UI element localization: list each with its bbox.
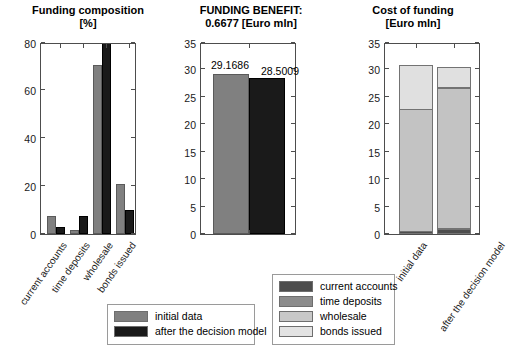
ytick-mark-3-10-right [475,178,479,179]
ytick-mark-2-20-right [291,123,295,124]
ytick-mark-1-40-right [131,137,135,138]
ytick-label-3-0: 0 [352,230,380,241]
legend-item-bonds-issued[interactable]: bonds issued [279,324,388,339]
ytick-label-3-10: 10 [352,175,380,186]
plot-area-3 [385,44,479,234]
xtick-mark-2-mid-bottom [249,230,250,234]
ytick-mark-2-35-right [291,42,295,43]
ytick-label-2-25: 25 [168,93,196,104]
ytick-mark-2-15-right [291,151,295,152]
ytick-label-1-60: 60 [8,86,36,97]
ytick-mark-2-10-right [291,178,295,179]
ytick-mark-3-30-right [475,68,479,69]
xtick-mark-1-1 [60,44,61,48]
ytick-label-1-0: 0 [8,230,36,241]
legend-label-current-accounts: current accounts [320,281,398,292]
ytick-mark-1-60 [41,89,45,90]
panel-1-title-line2: [%] [8,17,168,30]
ytick-mark-2-5-right [291,206,295,207]
bar-initial-wholesale [93,65,102,234]
ytick-mark-2-0 [201,233,205,234]
bar-value-after-model: 28.5009 [250,66,310,77]
ytick-label-3-20: 20 [352,120,380,131]
ytick-label-2-15: 15 [168,147,196,158]
ytick-mark-1-80 [41,42,45,43]
legend-item-wholesale[interactable]: wholesale [279,309,388,324]
ytick-mark-3-5-right [475,206,479,207]
ytick-mark-3-20-right [475,123,479,124]
ytick-mark-1-80-right [131,42,135,43]
ytick-mark-3-20 [385,123,389,124]
legend-item-current-accounts[interactable]: current accounts [279,279,388,294]
ytick-mark-3-0 [385,233,389,234]
ytick-mark-3-0-right [475,233,479,234]
panel-1-title-line1: Funding composition [8,4,168,17]
axes-funding-composition [40,43,136,235]
xtick-mark-3-1 [416,44,417,48]
bar-model-current-accounts [56,227,65,234]
ytick-label-2-35: 35 [168,39,196,50]
legend-item-time-deposits[interactable]: time deposits [279,294,388,309]
ytick-label-3-25: 25 [352,93,380,104]
legend-swatch-time-deposits [279,296,313,307]
plot-area-1 [41,44,135,234]
legend-label-bonds-issued: bonds issued [320,326,382,337]
ytick-mark-3-30 [385,68,389,69]
legend-label-after-model: after the decision model [155,326,266,337]
bar-benefit-after-model [249,78,285,234]
legend-item-initial-data[interactable]: initial data [114,309,248,324]
bar-initial-current-accounts [47,216,56,234]
ytick-mark-2-35 [201,42,205,43]
bar-model-wholesale [102,44,111,234]
ytick-mark-3-35 [385,42,389,43]
panel-2-title-line2: 0.6677 [Euro mln] [176,17,326,30]
ytick-mark-1-40 [41,137,45,138]
legend-swatch-current-accounts [279,281,313,292]
bar-initial-bonds-issued [116,184,125,234]
bar-model-time-deposits [79,216,88,235]
axes-cost-of-funding [384,43,480,235]
ytick-label-2-5: 5 [168,202,196,213]
legend-label-wholesale: wholesale [320,311,367,322]
legend-series: initial data after the decision model [107,304,255,345]
ytick-label-3-35: 35 [352,39,380,50]
bar-benefit-initial-data [213,74,249,234]
legend-label-initial-data: initial data [155,311,202,322]
xtick-mark-3-2 [454,44,455,48]
ytick-label-1-80: 80 [8,39,36,50]
stack-model-current-accounts [437,229,471,235]
ytick-mark-1-60-right [131,89,135,90]
legend-swatch-after-model [114,326,148,337]
stack-initial-wholesale [399,65,433,109]
ytick-mark-2-25 [201,96,205,97]
xlabel-3-after-model: after the decision model [423,240,507,353]
legend-item-after-model[interactable]: after the decision model [114,324,248,339]
ytick-mark-2-25-right [291,96,295,97]
bar-initial-time-deposits [70,230,79,234]
ytick-mark-2-5 [201,206,205,207]
ytick-mark-3-25 [385,96,389,97]
ytick-label-2-30: 30 [168,65,196,76]
ytick-label-2-0: 0 [168,230,196,241]
ytick-label-3-30: 30 [352,65,380,76]
stack-model-time-deposits [437,88,471,229]
ytick-label-1-20: 20 [8,182,36,193]
ytick-mark-2-15 [201,151,205,152]
ytick-mark-3-25-right [475,96,479,97]
panel-2-title-line1: FUNDING BENEFIT: [176,4,326,17]
panel-3-title-line1: Cost of funding [338,4,488,17]
ytick-mark-3-35-right [475,42,479,43]
ytick-mark-1-20-right [131,185,135,186]
ytick-mark-2-20 [201,123,205,124]
xtick-mark-1-3 [106,44,107,48]
legend-swatch-bonds-issued [279,326,313,337]
ytick-label-2-20: 20 [168,120,196,131]
legend-swatch-initial-data [114,311,148,322]
xtick-mark-1-2 [83,44,84,48]
bar-model-bonds-issued [125,210,134,234]
ytick-mark-2-0-right [291,233,295,234]
legend-swatch-wholesale [279,311,313,322]
ytick-label-3-15: 15 [352,147,380,158]
ytick-mark-1-0-right [131,233,135,234]
legend-categories: current accounts time deposits wholesale… [272,274,395,345]
